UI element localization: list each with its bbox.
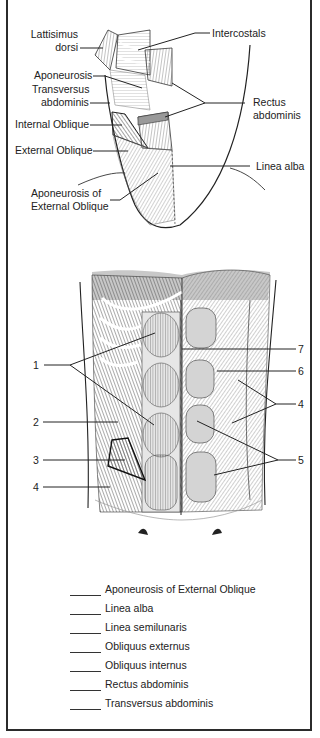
callout-2: 2 xyxy=(33,416,39,428)
answer-blank[interactable] xyxy=(70,681,101,691)
answer-blank[interactable] xyxy=(70,643,101,653)
answer-row: Rectus abdominis xyxy=(70,672,256,691)
callout-4-left: 4 xyxy=(33,481,39,493)
callout-5: 5 xyxy=(298,454,304,466)
answer-row: Linea semilunaris xyxy=(70,615,256,634)
answer-term: Linea alba xyxy=(105,602,153,615)
answer-term: Obliquus externus xyxy=(105,640,190,653)
callout-6: 6 xyxy=(298,365,304,377)
answer-term: Transversus abdominis xyxy=(105,697,213,710)
answer-list: Aponeurosis of External Oblique Linea al… xyxy=(70,577,256,710)
answer-term: Obliquus internus xyxy=(105,659,187,672)
answer-term: Linea semilunaris xyxy=(105,621,187,634)
answer-row: Obliquus externus xyxy=(70,634,256,653)
answer-row: Obliquus internus xyxy=(70,653,256,672)
answer-blank[interactable] xyxy=(70,624,101,634)
answer-blank[interactable] xyxy=(70,605,101,615)
torso-muscle-illustration xyxy=(0,0,320,560)
answer-row: Aponeurosis of External Oblique xyxy=(70,577,256,596)
answer-blank[interactable] xyxy=(70,586,101,596)
answer-blank[interactable] xyxy=(70,700,101,710)
answer-row: Linea alba xyxy=(70,596,256,615)
callout-4-right: 4 xyxy=(298,398,304,410)
callout-7: 7 xyxy=(298,343,304,355)
callout-1: 1 xyxy=(33,359,39,371)
answer-term: Aponeurosis of External Oblique xyxy=(105,583,256,596)
callout-3: 3 xyxy=(33,454,39,466)
answer-term: Rectus abdominis xyxy=(105,678,188,691)
answer-row: Transversus abdominis xyxy=(70,691,256,710)
answer-blank[interactable] xyxy=(70,662,101,672)
